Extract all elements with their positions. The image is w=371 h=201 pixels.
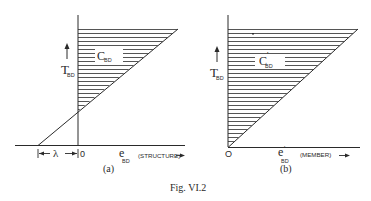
region-sub-b: BD [265, 63, 273, 69]
load-line-b [228, 29, 358, 148]
y-axis-sub-a: BD [67, 72, 75, 78]
ink-dot [252, 33, 254, 35]
panel-label-b: (b) [280, 163, 292, 175]
origin-label-a: 0 [80, 149, 85, 159]
y-axis-sub-b: BD [216, 75, 224, 81]
panel-label-a: (a) [103, 163, 114, 175]
x-axis-prime-b: ' [284, 144, 285, 152]
lambda-label: λ [53, 147, 59, 159]
panel-a: T BD C BD λ 0 e BD (STRUCTURE) (a) [15, 15, 190, 175]
right-arrow-icon [339, 154, 350, 158]
panel-b: T BD C ' BD O e ' BD (MEMBER) (b) [210, 15, 365, 175]
x-axis-note-b: (MEMBER) [300, 151, 331, 158]
figure-caption: Fig. VI.2 [170, 182, 206, 193]
x-axis-symbol-b: e [278, 145, 283, 159]
figure-canvas: T BD C BD λ 0 e BD (STRUCTURE) (a) [0, 0, 371, 201]
load-line-a [38, 29, 178, 146]
x-axis-note-a: (STRUCTURE) [138, 152, 180, 159]
hatched-region-a [78, 30, 190, 110]
region-sub-a: BD [104, 57, 112, 63]
x-axis-sub-a: BD [122, 158, 130, 164]
up-arrow-icon [215, 46, 220, 62]
origin-label-b: O [225, 149, 232, 159]
up-arrow-icon [65, 43, 70, 59]
